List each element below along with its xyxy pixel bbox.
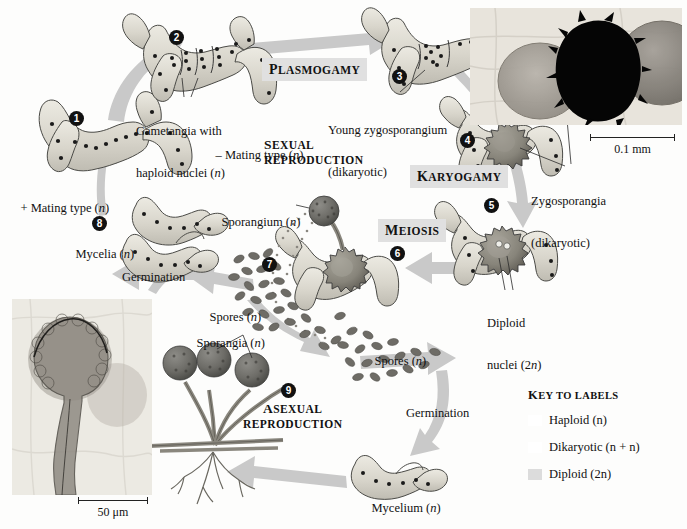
label-zygosporangia: Zygosporangia (dikaryotic) [531, 166, 606, 278]
label-young-zygosporangium: Young zygosporangium (dikaryotic) [328, 95, 447, 207]
key-diploid-pre: Diploid (2 [549, 467, 601, 481]
heading-plasmogamy: PLASMOGAMY [262, 58, 367, 81]
key-dikaryotic-pre: Dikaryotic ( [549, 440, 610, 454]
step-number-9: 9 [281, 383, 296, 398]
mycelium-post: ) [436, 501, 440, 515]
label-germination-left: Germination [122, 270, 185, 284]
step-number-4: 4 [460, 133, 475, 148]
spores-right-post: ) [422, 354, 426, 368]
sporangium-post: ) [296, 215, 300, 229]
scale-bar-micrograph-top: 0.1 mm [590, 134, 675, 157]
diploid-post: ) [537, 358, 541, 372]
label-minus-mating-type: – Mating type (n) [203, 134, 303, 176]
diploid-pre: nuclei (2 [487, 358, 531, 372]
heading-meiosis: MEIOSIS [378, 219, 446, 242]
label-plus-mating-type: + Mating type (n) [8, 187, 109, 229]
step-number-7: 7 [262, 257, 277, 272]
key-label-haploid: Haploid (n) [549, 413, 607, 428]
step-number-2: 2 [169, 30, 184, 45]
key-label-diploid: Diploid (2n) [549, 467, 611, 482]
sporangium-pre: Sporangium ( [222, 215, 290, 229]
label-diploid-nuclei: Diploid nuclei (2n) [487, 288, 542, 400]
plasmogamy-initial: P [269, 62, 278, 77]
zygosporangia-line-2: (dikaryotic) [531, 236, 606, 250]
sporangia-post: ) [261, 336, 265, 350]
mycelia-pre: Mycelia ( [76, 247, 124, 261]
zygosporangia-line-1: Zygosporangia [531, 194, 606, 208]
key-item-dikaryotic: Dikaryotic (n + n) [528, 437, 678, 457]
mycelium-pre: Mycelium ( [372, 501, 431, 515]
asexual-line-2: REPRODUCTION [243, 417, 342, 432]
fungal-life-cycle-figure: 0.1 mm [0, 0, 687, 529]
step-number-5: 5 [484, 198, 499, 213]
step-number-6: 6 [390, 246, 405, 261]
key-haploid-pre: Haploid ( [549, 413, 597, 427]
plus-mating-pre: + Mating type ( [21, 201, 99, 215]
label-spores-right: Spores (n) [362, 340, 426, 382]
diploid-line-1: Diploid [487, 316, 542, 330]
key-title-initial: K [528, 388, 538, 402]
key-title: KEY TO LABELS [528, 388, 678, 403]
key-to-labels: KEY TO LABELS Haploid (n) Dikaryotic (n … [528, 388, 678, 491]
spores-left-post: ) [257, 310, 261, 324]
label-sporangium: Sporangium (n) [209, 201, 300, 243]
spores-right-pre: Spores ( [375, 354, 416, 368]
step-number-1: 1 [69, 111, 84, 126]
title-asexual-reproduction: ASEXUAL REPRODUCTION [243, 400, 342, 432]
meiosis-rest: EIOSIS [399, 225, 440, 237]
plasmogamy-rest: LASMOGAMY [278, 64, 360, 76]
key-item-diploid: Diploid (2n) [528, 464, 678, 484]
asexual-initial: A [263, 401, 273, 416]
key-diploid-post: ) [607, 467, 611, 481]
label-mycelia: Mycelia (n) [63, 233, 134, 275]
young-zygo-line-1: Young zygosporangium [328, 123, 447, 137]
label-mycelium: Mycelium (n) [359, 487, 441, 529]
step-number-3: 3 [392, 69, 407, 84]
scale-bar-line [590, 134, 675, 141]
key-swatch-haploid [528, 415, 542, 426]
key-swatch-diploid [528, 469, 542, 480]
meiosis-initial: M [385, 223, 399, 238]
scale-bar-micrograph-bottom: 50 μm [78, 497, 148, 520]
key-haploid-post: ) [603, 413, 607, 427]
scale-bar-label-top: 0.1 mm [590, 142, 675, 157]
scale-bar-line-bottom [78, 497, 148, 504]
key-item-haploid: Haploid (n) [528, 410, 678, 430]
mycelia-post: ) [130, 247, 134, 261]
zygosporangia-micrograph [470, 8, 682, 125]
minus-mating-post: ) [299, 148, 303, 162]
sporangium-micrograph [12, 299, 152, 495]
spores-left-pre: Spores ( [210, 310, 251, 324]
asexual-rest: SEXUAL [273, 403, 322, 415]
key-dikaryotic-post: ) [636, 440, 640, 454]
key-swatch-dikaryotic [528, 442, 542, 453]
scale-bar-label-bottom: 50 μm [78, 505, 148, 520]
plus-mating-post: ) [105, 201, 109, 215]
key-title-rest: EY TO LABELS [538, 390, 618, 401]
asexual-line-1: ASEXUAL [243, 400, 342, 417]
label-germination-right: Germination [406, 406, 469, 420]
key-label-dikaryotic: Dikaryotic (n + n) [549, 440, 640, 455]
young-zygo-line-2: (dikaryotic) [328, 165, 447, 179]
label-spores-left: Spores (n) [197, 296, 261, 338]
sporangia-pre: Sporangia ( [197, 336, 255, 350]
minus-mating-pre: – Mating type ( [216, 148, 293, 162]
key-dikaryotic-nn: n + n [610, 440, 636, 454]
organism-stage-2-gametangia [123, 14, 277, 104]
diploid-line-2: nuclei (2n) [487, 358, 542, 372]
